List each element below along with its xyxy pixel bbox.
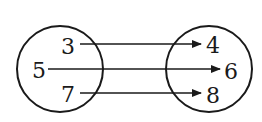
mapping-diagram: 3 5 7 4 6 8 — [0, 0, 262, 122]
range-element-8: 8 — [206, 83, 220, 108]
range-element-6: 6 — [224, 59, 238, 84]
domain-element-7: 7 — [61, 82, 75, 107]
domain-element-3: 3 — [61, 34, 75, 59]
domain-element-5: 5 — [32, 58, 46, 83]
range-element-4: 4 — [206, 33, 220, 58]
